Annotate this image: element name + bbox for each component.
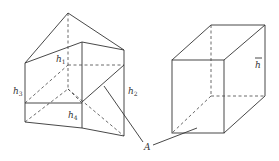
box-top-face [172, 25, 265, 60]
section-diagonal-edge [82, 65, 124, 102]
prism-apex-edges [25, 13, 124, 63]
truncated-prism: h1 h2 h3 h4 [13, 13, 138, 136]
rectangular-box: h [172, 25, 265, 133]
label-h2: h2 [128, 86, 138, 97]
label-a: A [143, 142, 151, 152]
hidden-mid [68, 89, 82, 103]
label-h-bar: h [255, 60, 261, 70]
box-front-face [172, 60, 224, 133]
figure-canvas: h1 h2 h3 h4 h A [0, 0, 279, 161]
pointer-a: A [104, 86, 197, 152]
geometry-figure: h1 h2 h3 h4 h A [0, 0, 279, 161]
hidden-bottom-left [25, 89, 68, 122]
box-right-face [224, 25, 265, 133]
hidden-bottom-right [68, 89, 124, 136]
prism-bottom-edges [25, 122, 124, 136]
box-hidden-left-bottom [172, 96, 211, 133]
hidden-section-left [25, 65, 68, 103]
label-h1: h1 [56, 54, 66, 65]
label-h4: h4 [68, 110, 78, 121]
label-h3: h3 [13, 86, 23, 97]
